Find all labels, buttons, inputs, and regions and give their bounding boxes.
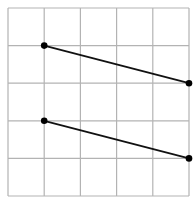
- grid-lines: [8, 8, 189, 196]
- grid-diagram: [0, 0, 194, 204]
- endpoint-dot: [186, 80, 193, 87]
- endpoint-dot: [41, 42, 48, 49]
- endpoint-dot: [186, 155, 193, 162]
- endpoint-dot: [41, 118, 48, 125]
